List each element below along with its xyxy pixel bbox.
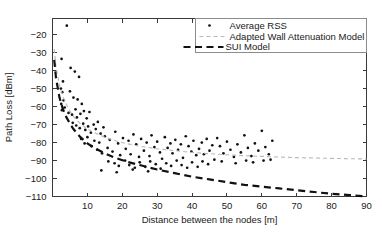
data-point [97, 121, 100, 124]
data-point [138, 161, 141, 164]
data-point [175, 159, 178, 162]
data-point [75, 124, 78, 127]
data-point [148, 155, 151, 158]
legend-label: Average RSS [230, 20, 287, 31]
data-point [198, 148, 201, 151]
y-tick-label: −40 [30, 65, 46, 76]
data-point [254, 142, 257, 145]
data-point [79, 112, 82, 115]
data-point [150, 134, 153, 137]
data-point [83, 142, 86, 145]
x-tick-label: 60 [257, 200, 268, 211]
x-tick-label: 30 [152, 200, 163, 211]
data-point [149, 160, 152, 163]
data-point [208, 149, 211, 152]
data-point [60, 58, 63, 61]
data-point [154, 163, 157, 166]
path-loss-chart: 102030405060708090−20−30−40−50−60−70−80−… [0, 0, 382, 234]
data-point [245, 159, 248, 162]
data-point [226, 140, 229, 143]
data-point [222, 152, 225, 155]
data-point [180, 164, 183, 167]
data-point [207, 163, 210, 166]
data-point [69, 90, 72, 93]
data-point [191, 161, 194, 164]
data-point [115, 171, 118, 174]
y-tick-label: −110 [26, 191, 47, 202]
data-point [132, 133, 135, 136]
legend-label: Adapted Wall Attenuation Model [230, 31, 365, 42]
x-tick-label: 20 [117, 200, 128, 211]
data-point [76, 98, 79, 101]
data-point [234, 162, 237, 165]
data-point [147, 170, 150, 173]
data-point [117, 142, 120, 145]
data-point [159, 151, 162, 154]
data-point [229, 148, 232, 151]
data-point [62, 80, 65, 83]
data-point [60, 103, 63, 106]
data-point [260, 130, 263, 133]
data-point [166, 147, 169, 150]
data-point [138, 156, 141, 159]
x-tick-label: 10 [82, 200, 93, 211]
legend-marker-average-rss [208, 24, 211, 27]
adapted-wall-attenuation-model-line [54, 49, 366, 159]
data-point [94, 128, 97, 131]
data-point [186, 166, 189, 169]
sui-model-line [54, 60, 366, 197]
data-point [169, 142, 172, 145]
data-point [219, 145, 222, 148]
data-point [250, 155, 253, 158]
data-point [236, 143, 239, 146]
data-point [84, 129, 87, 132]
data-point [184, 135, 187, 138]
data-point [180, 143, 183, 146]
data-point [73, 70, 76, 73]
legend-label: SUI Model [226, 41, 270, 52]
data-point [71, 121, 74, 124]
data-point [93, 139, 96, 142]
data-point [163, 136, 166, 139]
data-point [74, 108, 77, 111]
data-point [269, 158, 272, 161]
data-point [111, 150, 114, 153]
data-point [233, 156, 236, 159]
x-tick-label: 50 [222, 200, 233, 211]
data-point [200, 141, 203, 144]
data-point [170, 165, 173, 168]
x-axis-label: Distance between the nodes [m] [142, 214, 278, 225]
data-point [129, 153, 132, 156]
data-point [271, 139, 274, 142]
data-point [65, 24, 68, 27]
data-point [86, 136, 89, 139]
y-tick-label: −20 [30, 29, 46, 40]
data-point [113, 162, 116, 165]
data-point [267, 153, 270, 156]
data-point [122, 137, 125, 140]
data-point [140, 138, 143, 141]
data-point [107, 160, 110, 163]
data-point [156, 140, 159, 143]
y-tick-label: −100 [25, 173, 46, 184]
data-point [92, 123, 95, 126]
data-point [264, 146, 267, 149]
data-point [78, 127, 81, 130]
data-point [128, 164, 131, 167]
data-point [243, 134, 246, 137]
data-point [143, 149, 146, 152]
data-point [69, 67, 72, 70]
data-point [213, 158, 216, 161]
data-point [99, 132, 102, 135]
data-point [165, 162, 168, 165]
data-point [80, 103, 83, 106]
data-point [252, 161, 255, 164]
data-point [127, 139, 130, 142]
data-point [174, 139, 177, 142]
data-point [247, 147, 250, 150]
data-point [117, 165, 120, 168]
data-point [60, 87, 63, 90]
data-point [220, 160, 223, 163]
data-point [159, 167, 162, 170]
chart-legend: Average RSSAdapted Wall Attenuation Mode… [184, 19, 367, 53]
